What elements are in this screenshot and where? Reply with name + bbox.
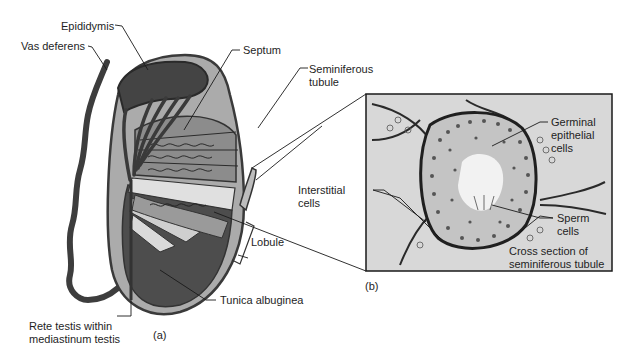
label-germinal-3: cells <box>551 142 573 155</box>
label-germinal-2: epithelial <box>551 129 594 142</box>
label-vas-deferens: Vas deferens <box>21 40 85 53</box>
label-rete-testis-1: Rete testis within <box>29 320 112 333</box>
label-interstitial-1: Interstitial <box>298 184 345 197</box>
label-cross-section-1: Cross section of <box>509 245 588 258</box>
caption-b: (b) <box>365 280 378 293</box>
testis-diagram <box>0 0 633 357</box>
label-septum: Septum <box>243 44 281 57</box>
testis-illustration <box>69 55 256 314</box>
caption-a: (a) <box>153 329 166 342</box>
label-tunica-albuginea: Tunica albuginea <box>220 294 303 307</box>
label-epididymis: Epididymis <box>61 20 114 33</box>
label-rete-testis-2: mediastinum testis <box>29 333 120 346</box>
label-sperm-2: cells <box>557 225 579 238</box>
label-seminiferous-tubule-1: Seminiferous <box>309 63 373 76</box>
label-sperm-1: Sperm <box>557 212 589 225</box>
label-seminiferous-tubule-2: tubule <box>309 76 339 89</box>
label-cross-section-2: seminiferous tubule <box>509 258 604 271</box>
label-germinal-1: Germinal <box>551 116 596 129</box>
label-lobule: Lobule <box>251 236 284 249</box>
label-interstitial-2: cells <box>298 197 320 210</box>
